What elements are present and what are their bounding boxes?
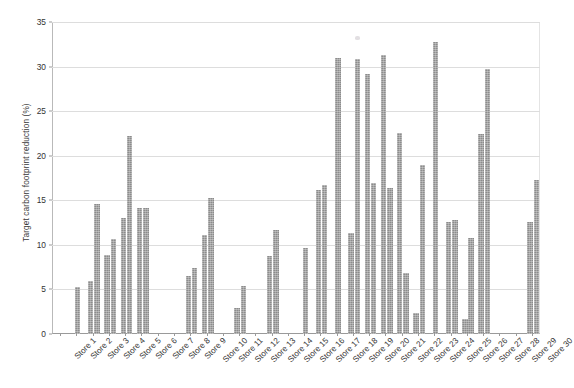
bar bbox=[127, 136, 132, 334]
x-tick-mark bbox=[125, 333, 126, 336]
x-tick-mark bbox=[272, 333, 273, 336]
x-tick-mark bbox=[353, 333, 354, 336]
bar bbox=[143, 208, 148, 334]
x-tick-mark bbox=[93, 333, 94, 336]
bar-group bbox=[68, 22, 84, 334]
bar-group bbox=[198, 22, 214, 334]
bar bbox=[527, 222, 532, 334]
x-tick-mark bbox=[190, 333, 191, 336]
bar-group bbox=[345, 22, 361, 334]
bar bbox=[241, 286, 246, 334]
bar bbox=[121, 218, 126, 334]
bar-group bbox=[361, 22, 377, 334]
bar bbox=[316, 190, 321, 334]
bar bbox=[452, 220, 457, 334]
y-tick-label: 30 bbox=[37, 62, 46, 72]
bar bbox=[387, 188, 392, 334]
bar-group bbox=[410, 22, 426, 334]
y-tick-label: 35 bbox=[37, 17, 46, 27]
bar bbox=[413, 313, 418, 334]
x-tick-mark bbox=[467, 333, 468, 336]
x-tick-mark bbox=[76, 333, 77, 336]
bar bbox=[433, 42, 438, 334]
bar bbox=[534, 180, 539, 334]
bar-group bbox=[329, 22, 345, 334]
x-axis-tick-labels: Store 1Store 2Store 3Store 4Store 5Store… bbox=[52, 336, 540, 388]
bar bbox=[420, 165, 425, 334]
bar bbox=[202, 235, 207, 334]
bar bbox=[485, 69, 490, 334]
x-tick-mark bbox=[402, 333, 403, 336]
bar-group bbox=[296, 22, 312, 334]
x-tick-mark bbox=[483, 333, 484, 336]
bar-group bbox=[459, 22, 475, 334]
bar bbox=[111, 239, 116, 334]
y-tick-label: 5 bbox=[41, 284, 46, 294]
bar bbox=[104, 255, 109, 334]
x-tick-mark bbox=[516, 333, 517, 336]
bar bbox=[234, 308, 239, 334]
x-tick-mark bbox=[385, 333, 386, 336]
x-tick-mark bbox=[288, 333, 289, 336]
x-tick-mark bbox=[141, 333, 142, 336]
bar-group bbox=[426, 22, 442, 334]
bar-group bbox=[475, 22, 491, 334]
x-tick-mark bbox=[304, 333, 305, 336]
bar-group bbox=[182, 22, 198, 334]
bar-group bbox=[117, 22, 133, 334]
x-tick-mark bbox=[207, 333, 208, 336]
bar-group bbox=[442, 22, 458, 334]
bar bbox=[192, 268, 197, 334]
bar bbox=[365, 74, 370, 334]
bar bbox=[397, 133, 402, 334]
bar bbox=[186, 276, 191, 334]
x-tick-mark bbox=[60, 333, 61, 336]
x-tick-mark bbox=[109, 333, 110, 336]
scan-artifact-speck bbox=[355, 36, 360, 40]
bar bbox=[208, 198, 213, 334]
bar bbox=[273, 230, 278, 334]
x-tick-mark bbox=[255, 333, 256, 336]
bar-group bbox=[312, 22, 328, 334]
bar bbox=[94, 204, 99, 334]
bar bbox=[88, 281, 93, 334]
bar bbox=[468, 238, 473, 334]
x-tick-mark bbox=[418, 333, 419, 336]
x-tick-mark bbox=[532, 333, 533, 336]
x-tick-mark bbox=[158, 333, 159, 336]
x-tick-mark bbox=[320, 333, 321, 336]
y-tick-label: 25 bbox=[37, 106, 46, 116]
x-tick-mark bbox=[223, 333, 224, 336]
x-tick-mark bbox=[239, 333, 240, 336]
bar bbox=[322, 185, 327, 334]
bar-group bbox=[231, 22, 247, 334]
bar bbox=[267, 256, 272, 334]
bar bbox=[462, 319, 467, 334]
bar-group bbox=[394, 22, 410, 334]
bar-group bbox=[133, 22, 149, 334]
bar-group bbox=[85, 22, 101, 334]
bar-group bbox=[263, 22, 279, 334]
x-tick-mark bbox=[174, 333, 175, 336]
bar bbox=[137, 208, 142, 334]
x-tick-mark bbox=[499, 333, 500, 336]
y-tick-label: 15 bbox=[37, 195, 46, 205]
bar-series-group bbox=[52, 22, 540, 334]
x-tick-mark bbox=[434, 333, 435, 336]
y-axis-title: Target carbon footprint reduction (%) bbox=[22, 53, 31, 293]
bar bbox=[403, 273, 408, 335]
bar bbox=[335, 58, 340, 334]
bar bbox=[348, 233, 353, 334]
bar bbox=[75, 287, 80, 334]
x-tick-mark bbox=[337, 333, 338, 336]
y-tick-label: 20 bbox=[37, 151, 46, 161]
bar-group bbox=[377, 22, 393, 334]
x-tick-mark bbox=[451, 333, 452, 336]
bar bbox=[355, 59, 360, 334]
y-tick-label: 0 bbox=[41, 329, 46, 339]
bar bbox=[446, 222, 451, 334]
bar bbox=[371, 183, 376, 334]
bar bbox=[303, 248, 308, 334]
bar bbox=[478, 134, 483, 334]
